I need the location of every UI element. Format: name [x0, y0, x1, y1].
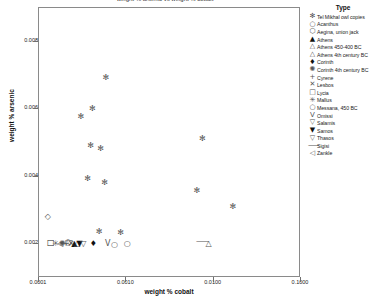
data-point[interactable]: ✻: [116, 228, 125, 237]
data-point[interactable]: ✻: [96, 144, 105, 153]
legend-item[interactable]: ✳Mallus: [308, 97, 391, 105]
legend-item[interactable]: ✺Corinth 4th century BC: [308, 66, 391, 74]
legend-item[interactable]: △Athens 4th century BC: [308, 51, 391, 59]
data-point[interactable]: ○: [123, 239, 132, 248]
y-tick-mark: [33, 176, 38, 177]
data-point[interactable]: ✻: [101, 73, 110, 82]
legend-item-label: Zankle: [317, 150, 332, 156]
x-tick-mark: [125, 277, 126, 282]
legend-item[interactable]: ○Messana, 450 BC: [308, 104, 391, 112]
data-point[interactable]: ✻: [100, 178, 109, 187]
legend-item[interactable]: ◁Zankle: [308, 150, 391, 158]
legend-item-label: Lycia: [317, 90, 329, 96]
legend-item-label: Corinth: [317, 59, 333, 65]
y-tick-mark: [33, 41, 38, 42]
legend-item[interactable]: ▽Thasos: [308, 135, 391, 143]
data-point[interactable]: Ⅴ: [103, 239, 112, 248]
data-point[interactable]: ✻: [228, 202, 237, 211]
legend-item[interactable]: ▼Samos: [308, 127, 391, 135]
data-point[interactable]: ◁: [56, 239, 65, 248]
x-tick-mark: [213, 277, 214, 282]
legend-item[interactable]: ⬡Aegina, union jack: [308, 28, 391, 36]
legend-item[interactable]: ▲Athens: [308, 36, 391, 44]
legend-item[interactable]: ⸺Sigisi: [308, 142, 391, 150]
legend-item[interactable]: ⅤOmissi: [308, 112, 391, 120]
chart-title: weight % arsenic vs weight % cobalt: [40, 0, 290, 4]
y-tick-label: 0.006: [0, 104, 38, 110]
plot-area: [38, 7, 300, 277]
scatter-chart: weight % arsenic vs weight % cobalt weig…: [0, 0, 391, 301]
legend-item[interactable]: ○Acanthus: [308, 21, 391, 29]
y-tick-label: 0.008: [0, 37, 38, 43]
legend-item-label: Lesbos: [317, 82, 333, 88]
legend-item[interactable]: □Lycia: [308, 89, 391, 97]
legend-item-label: Salamis: [317, 120, 335, 126]
legend-item[interactable]: +Cyrene: [308, 74, 391, 82]
legend-title: Type: [308, 4, 378, 11]
legend-item-label: Samos: [317, 128, 333, 134]
legend-item-label: Acanthus: [317, 21, 338, 27]
x-tick-mark: [300, 277, 301, 282]
legend-item-label: Athens 4th century BC: [317, 52, 368, 58]
data-point[interactable]: ✻: [95, 227, 104, 236]
data-point[interactable]: ✻: [198, 134, 207, 143]
data-point[interactable]: ◇: [43, 212, 52, 221]
legend-item-label: Messana, 450 BC: [317, 105, 357, 111]
legend-item-label: Cyrene: [317, 75, 333, 81]
data-point[interactable]: ⸺: [196, 237, 205, 246]
y-tick-label: 0.004: [0, 172, 38, 178]
y-tick-mark: [33, 108, 38, 109]
legend-item-label: Tel Mikhal owl copies: [317, 14, 365, 20]
legend-item-label: Athens 450-400 BC: [317, 44, 361, 50]
x-tick-mark: [38, 277, 39, 282]
legend-item-label: Sigisi: [317, 143, 329, 149]
x-axis-label: weight % cobalt: [38, 288, 300, 295]
y-axis-label: weight % arsenic: [8, 81, 15, 151]
legend-item[interactable]: ✻Tel Mikhal owl copies: [308, 13, 391, 21]
y-tick-mark: [33, 243, 38, 244]
legend: Type ✻Tel Mikhal owl copies○Acanthus⬡Aeg…: [308, 4, 391, 157]
legend-item-label: Athens: [317, 37, 333, 43]
legend-item-label: Mallus: [317, 97, 332, 103]
legend-item-label: Corinth 4th century BC: [317, 67, 368, 73]
legend-item[interactable]: ▽Salamis: [308, 119, 391, 127]
data-point[interactable]: ✻: [88, 104, 97, 113]
data-point[interactable]: ♦: [89, 239, 98, 248]
data-point[interactable]: ✻: [86, 141, 95, 150]
legend-item[interactable]: ♦Corinth: [308, 59, 391, 67]
legend-item[interactable]: ✕Lesbos: [308, 81, 391, 89]
legend-item-label: Omissi: [317, 113, 333, 119]
legend-items: ✻Tel Mikhal owl copies○Acanthus⬡Aegina, …: [308, 13, 391, 157]
data-point[interactable]: ▽: [65, 238, 74, 247]
legend-symbol-icon: ◁: [308, 150, 317, 158]
legend-item-label: Aegina, union jack: [317, 29, 359, 35]
data-point[interactable]: ✻: [76, 112, 85, 121]
data-point[interactable]: ▽: [79, 239, 88, 248]
y-tick-label: 0.002: [0, 239, 38, 245]
legend-item[interactable]: △Athens 450-400 BC: [308, 43, 391, 51]
data-point[interactable]: ✻: [192, 186, 201, 195]
data-point[interactable]: ✻: [83, 174, 92, 183]
